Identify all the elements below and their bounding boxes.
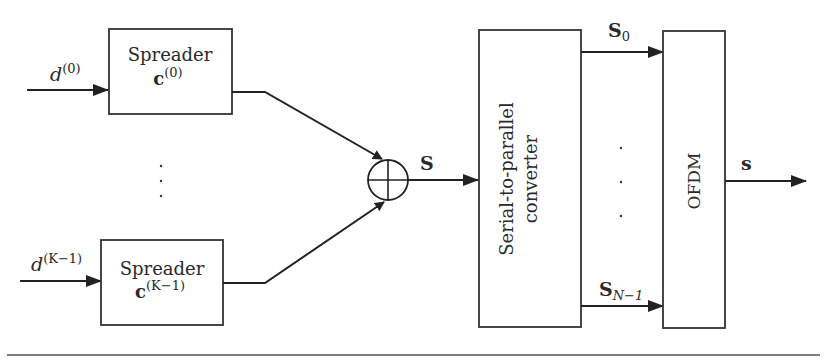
spreader-0: Spreader c(0) — [109, 29, 232, 114]
serial-to-parallel-converter: Serial-to-parallel converter — [479, 30, 581, 327]
spreader-K-1: Spreader c(K−1) — [101, 240, 223, 325]
parallel-output-label-N-1: SN−1 — [599, 278, 643, 303]
adder-output-label: S — [420, 152, 434, 174]
spreader-0-title: Spreader — [128, 44, 213, 65]
vertical-ellipsis-left — [160, 165, 162, 197]
output-label: s — [741, 152, 752, 174]
spreader-K-1-title: Spreader — [120, 258, 205, 279]
input-dK-1: d(K−1) — [20, 251, 101, 281]
block-diagram: d(0) Spreader c(0) d(K−1) Spreader c(K−1… — [0, 0, 830, 360]
input-label-0: d(0) — [50, 61, 81, 85]
parallel-output-label-0: S0 — [608, 19, 630, 44]
ofdm-block: OFDM — [663, 31, 725, 328]
spreader-K-1-to-adder — [223, 202, 384, 283]
input-d0: d(0) — [27, 61, 108, 90]
adder — [368, 160, 408, 200]
converter-label-line2: converter — [520, 134, 541, 223]
spreader-0-to-adder — [232, 92, 382, 159]
input-label-K-1: d(K−1) — [31, 251, 82, 275]
converter-label-line1: Serial-to-parallel — [496, 102, 517, 256]
vertical-ellipsis-right — [620, 147, 622, 217]
ofdm-label: OFDM — [684, 153, 704, 210]
